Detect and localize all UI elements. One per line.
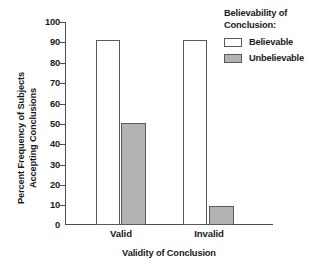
y-tick-label-100: 100	[34, 18, 60, 27]
y-axis-line	[65, 22, 66, 225]
bar-chart: Percent Frequency of Subjects Accepting …	[0, 0, 333, 268]
bar-valid-believable	[96, 40, 120, 225]
y-tick-label-50: 50	[34, 120, 60, 129]
y-tick-label-0: 0	[34, 221, 60, 230]
y-tick-label-60: 60	[34, 100, 60, 109]
legend-swatch-unbelievable-icon	[224, 54, 242, 63]
x-category-label-invalid: Invalid	[164, 228, 254, 239]
legend-title-line-2: Conclusion:	[224, 20, 332, 32]
legend-title-line-1: Believability of	[224, 8, 332, 20]
bar-invalid-believable	[183, 40, 207, 225]
x-category-label-valid: Valid	[76, 228, 166, 239]
legend-label-believable: Believable	[249, 37, 293, 47]
y-tick-label-30: 30	[34, 161, 60, 170]
y-tick-label-40: 40	[34, 140, 60, 149]
legend: Believability of Conclusion: Believable …	[224, 8, 332, 63]
legend-swatch-believable-icon	[224, 38, 242, 47]
legend-item-unbelievable: Unbelievable	[224, 53, 332, 63]
legend-label-unbelievable: Unbelievable	[249, 53, 304, 63]
bar-valid-unbelievable	[121, 123, 146, 225]
y-tick-label-20: 20	[34, 181, 60, 190]
y-axis-title-line-1: Percent Frequency of Subjects	[16, 33, 28, 243]
bar-invalid-unbelievable	[209, 206, 234, 225]
legend-title: Believability of Conclusion:	[224, 8, 332, 31]
y-tick-label-70: 70	[34, 79, 60, 88]
legend-item-believable: Believable	[224, 37, 332, 47]
y-tick-label-10: 10	[34, 201, 60, 210]
y-tick-label-80: 80	[34, 59, 60, 68]
x-axis-title: Validity of Conclusion	[55, 248, 283, 258]
y-tick-label-90: 90	[34, 38, 60, 47]
